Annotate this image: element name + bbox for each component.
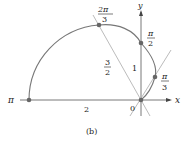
label-pi-over-two-num: π bbox=[147, 29, 154, 38]
point-pi-over-three bbox=[153, 75, 158, 80]
label-two-pi-over-three-num: 2π bbox=[97, 5, 109, 14]
label-y-axis: y bbox=[137, 1, 143, 10]
polar-curve-diagram: π 2π 3 π 2 π 3 2 3 2 1 0 x y (b) bbox=[0, 0, 187, 142]
label-pi-over-three-num: π bbox=[161, 72, 168, 81]
figure-caption: (b) bbox=[86, 127, 97, 136]
label-x-axis: x bbox=[175, 95, 180, 105]
label-segment-three-halves-den: 2 bbox=[105, 68, 110, 77]
point-pi-over-two bbox=[139, 41, 144, 46]
label-pi: π bbox=[7, 95, 15, 105]
label-segment-2: 2 bbox=[84, 105, 89, 114]
label-segment-1: 1 bbox=[132, 64, 137, 73]
point-pi bbox=[27, 98, 32, 103]
label-segment-three-halves-num: 3 bbox=[105, 58, 110, 67]
polar-curve bbox=[29, 25, 156, 100]
x-axis-arrow-icon bbox=[166, 98, 172, 102]
point-two-pi-over-three bbox=[97, 23, 102, 28]
label-pi-over-three-den: 3 bbox=[162, 83, 167, 92]
label-two-pi-over-three-den: 3 bbox=[102, 15, 107, 24]
point-origin bbox=[139, 98, 144, 103]
label-origin: 0 bbox=[130, 104, 135, 113]
label-pi-over-two-den: 2 bbox=[148, 39, 153, 48]
y-axis-arrow-icon bbox=[139, 10, 143, 16]
